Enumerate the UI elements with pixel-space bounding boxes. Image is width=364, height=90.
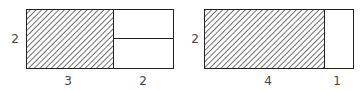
area-model-figure: 2 3 2 2 4 1 xyxy=(0,0,364,90)
side-label: 2 xyxy=(191,32,199,46)
diagram-1: 2 3 2 xyxy=(11,10,173,89)
diagram-2: 2 4 1 xyxy=(191,10,353,89)
shaded-region xyxy=(205,10,325,69)
bottom-label-unshaded: 2 xyxy=(139,74,147,88)
shaded-region xyxy=(27,10,114,69)
bottom-label-shaded: 4 xyxy=(264,74,272,88)
unshaded-region xyxy=(325,10,354,69)
side-label: 2 xyxy=(11,32,19,46)
bottom-label-shaded: 3 xyxy=(64,74,72,88)
bottom-label-unshaded: 1 xyxy=(333,74,341,88)
